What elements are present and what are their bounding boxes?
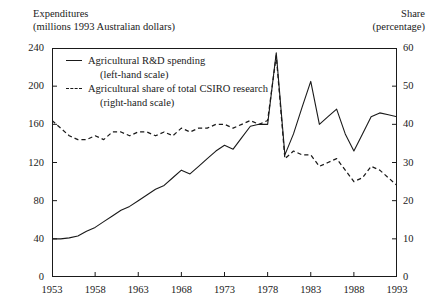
- right-axis-tick-label: 50: [403, 81, 433, 92]
- left-axis-header-line2: (millions 1993 Australian dollars): [33, 21, 175, 34]
- right-axis-tick-label: 30: [403, 158, 433, 169]
- solid-line-swatch-icon: [64, 54, 88, 68]
- x-axis-tick-label: 1983: [291, 285, 331, 296]
- dual-axis-line-chart: Expenditures (millions 1993 Australian d…: [0, 0, 437, 308]
- right-axis-header: Share (percentage): [373, 8, 425, 33]
- legend-item-share-csiro: Agricultural share of total CSIRO resear…: [64, 82, 268, 96]
- right-axis-header-line2: (percentage): [373, 21, 425, 34]
- right-axis-tick-label: 60: [403, 43, 433, 54]
- left-axis-tick-label: 240: [14, 43, 44, 54]
- legend-label-rd-spending: Agricultural R&D spending: [88, 54, 205, 68]
- left-axis-header: Expenditures (millions 1993 Australian d…: [33, 8, 175, 33]
- left-axis-tick-label: 200: [14, 81, 44, 92]
- dashed-line-swatch-icon: [64, 82, 88, 96]
- left-axis-tick-label: 160: [14, 119, 44, 130]
- x-axis-tick-label: 1978: [248, 285, 288, 296]
- right-axis-tick-label: 40: [403, 119, 433, 130]
- legend-scale-note-right: (right-hand scale): [100, 96, 174, 110]
- legend-subtitle-share-csiro: (right-hand scale): [64, 96, 268, 110]
- legend-scale-note-left: (left-hand scale): [100, 68, 169, 82]
- right-axis-header-line1: Share: [373, 8, 425, 21]
- x-axis-tick-label: 1988: [334, 285, 374, 296]
- right-axis-tick-label: 0: [403, 272, 433, 283]
- left-axis-tick-label: 80: [14, 196, 44, 207]
- x-axis-tick-label: 1968: [161, 285, 201, 296]
- left-axis-header-line1: Expenditures: [33, 8, 175, 21]
- right-axis-tick-label: 10: [403, 234, 433, 245]
- x-axis-tick-label: 1973: [205, 285, 245, 296]
- axis-tick-marks: [52, 86, 397, 277]
- x-axis-tick-label: 1958: [75, 285, 115, 296]
- right-axis-tick-label: 20: [403, 196, 433, 207]
- left-axis-tick-label: 40: [14, 234, 44, 245]
- x-axis-tick-label: 1963: [118, 285, 158, 296]
- legend-item-rd-spending: Agricultural R&D spending: [64, 54, 268, 68]
- legend-label-share-csiro: Agricultural share of total CSIRO resear…: [88, 82, 268, 96]
- left-axis-tick-label: 120: [14, 158, 44, 169]
- chart-legend: Agricultural R&D spending (left-hand sca…: [64, 54, 268, 110]
- x-axis-tick-label: 1993: [377, 285, 417, 296]
- x-axis-tick-label: 1953: [32, 285, 72, 296]
- left-axis-tick-label: 0: [14, 272, 44, 283]
- legend-subtitle-rd-spending: (left-hand scale): [64, 68, 268, 82]
